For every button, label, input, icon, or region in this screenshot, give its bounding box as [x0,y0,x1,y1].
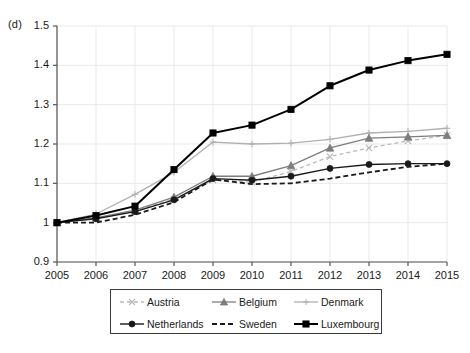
data-point-marker [444,161,450,167]
legend-swatch-netherlands-icon [119,318,145,330]
data-point-marker [405,161,411,167]
data-point-marker [327,136,333,142]
data-point-marker [366,161,372,167]
legend-item-luxembourg[interactable]: Luxembourg [293,318,379,330]
legend-swatch-austria-icon [119,296,145,308]
x-tick-label: 2010 [232,269,272,281]
x-tick-label: 2011 [271,269,311,281]
legend-row: AustriaBelgiumDenmark [111,291,381,313]
x-tick-label: 2009 [193,269,233,281]
x-tick-label: 2006 [76,269,116,281]
data-point-marker [210,130,216,136]
data-point-marker [303,321,309,327]
data-point-marker [327,83,333,89]
data-point-marker [288,173,294,179]
x-tick-label: 2012 [310,269,350,281]
panel-label: (d) [8,18,22,30]
legend-swatch-denmark-icon [293,296,319,308]
legend-item-belgium[interactable]: Belgium [211,296,277,308]
y-tick-label: 1.5 [23,19,49,31]
legend-label: Denmark [321,297,364,308]
legend-label: Austria [147,297,180,308]
data-point-marker [171,197,177,203]
legend-label: Luxembourg [321,319,379,330]
data-point-marker [288,140,294,146]
data-point-marker [249,177,255,183]
data-point-marker [405,58,411,64]
legend-label: Netherlands [147,319,204,330]
data-point-marker [249,122,255,128]
data-point-marker [129,321,135,327]
x-tick-label: 2015 [427,269,467,281]
legend-swatch-luxembourg-icon [293,318,319,330]
data-point-marker [287,162,295,169]
y-tick-label: 1.3 [23,98,49,110]
x-tick-label: 2013 [349,269,389,281]
chart-legend: AustriaBelgiumDenmarkNetherlandsSwedenLu… [110,289,382,334]
legend-item-sweden[interactable]: Sweden [211,318,277,330]
data-point-marker [444,51,450,57]
data-point-marker [288,106,294,112]
legend-item-denmark[interactable]: Denmark [293,296,364,308]
legend-swatch-sweden-icon [211,318,237,330]
legend-label: Belgium [239,297,277,308]
legend-item-netherlands[interactable]: Netherlands [119,318,204,330]
data-point-marker [132,191,138,197]
data-point-marker [54,220,60,226]
chart-axes [53,26,447,266]
x-tick-label: 2007 [115,269,155,281]
data-point-marker [366,67,372,73]
legend-swatch-belgium-icon [211,296,237,308]
y-tick-label: 1.2 [23,137,49,149]
x-tick-label: 2005 [37,269,77,281]
data-point-marker [444,125,450,131]
data-point-marker [249,141,255,147]
y-tick-label: 1.4 [23,58,49,70]
data-point-marker [171,166,177,172]
data-point-marker [132,203,138,209]
data-point-marker [327,165,333,171]
y-tick-label: 1 [23,216,49,228]
chart-figure: (d) 0.911.11.21.31.41.5 2005200620072008… [0,0,470,353]
x-tick-label: 2008 [154,269,194,281]
data-point-marker [93,212,99,218]
data-point-marker [210,176,216,182]
y-tick-label: 1.1 [23,176,49,188]
x-tick-label: 2014 [388,269,428,281]
y-tick-label: 0.9 [23,255,49,267]
legend-label: Sweden [239,319,277,330]
legend-row: NetherlandsSwedenLuxembourg [111,313,381,335]
data-point-marker [303,299,309,305]
legend-item-austria[interactable]: Austria [119,296,180,308]
